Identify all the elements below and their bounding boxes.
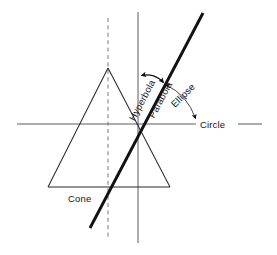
conic-sections-diagram: Hyperbola Parabola Ellipse Circle Cone [0, 0, 277, 255]
conic-sections-figure: Hyperbola Parabola Ellipse Circle Cone [0, 0, 277, 255]
label-circle: Circle [200, 119, 225, 130]
label-cone: Cone [68, 193, 91, 204]
